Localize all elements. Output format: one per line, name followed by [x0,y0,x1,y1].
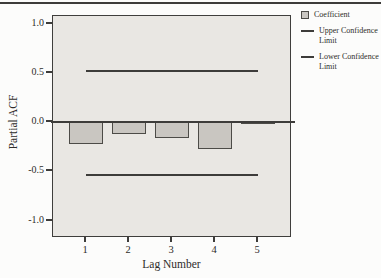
y-axis-tick-label: 1.0 [12,17,44,29]
x-axis-tick [170,237,172,242]
legend-item-label: Coefficient [314,10,374,20]
x-axis-tick-label: 4 [204,244,224,256]
plot-area [52,15,291,237]
bar-lag-2 [112,122,146,134]
legend-swatch-line [301,56,314,58]
lower-confidence-limit-line [86,174,258,176]
legend-item: Coefficient [301,10,379,20]
page-top-rule-divider [0,2,381,4]
x-axis-tick-label: 2 [118,244,138,256]
x-axis-tick [213,237,215,242]
x-axis-tick-label: 1 [75,244,95,256]
y-axis-tick-label: -1.0 [12,214,44,226]
bar-lag-4 [198,122,232,149]
x-axis-tick [256,237,258,242]
legend-item: Lower Confidence Limit [301,52,379,72]
x-axis-tick-label: 5 [247,244,267,256]
bar-lag-3 [155,122,189,138]
y-axis-tick-label: 0.5 [12,66,44,78]
x-axis-tick [127,237,129,242]
zero-reference-line [51,121,295,123]
x-axis-tick [84,237,86,242]
legend-swatch-line [301,30,314,32]
y-axis-tick [46,120,52,122]
legend-swatch-square [301,11,309,19]
upper-confidence-limit-line [86,70,258,72]
x-axis-title: Lag Number [52,258,291,270]
legend-item: Upper Confidence Limit [301,26,379,46]
y-axis-tick [46,71,52,73]
legend-item-label: Upper Confidence Limit [319,26,379,46]
y-axis-tick-label: 0.0 [12,115,44,127]
y-axis-tick [46,22,52,24]
y-axis-tick [46,169,52,171]
figure-page: Partial ACF 1.00.50.0-0.5-1.012345 Lag N… [0,0,381,278]
y-axis-tick [46,219,52,221]
x-axis-tick-label: 3 [161,244,181,256]
legend-item-label: Lower Confidence Limit [319,52,379,72]
legend: CoefficientUpper Confidence LimitLower C… [301,10,379,72]
y-axis-tick-label: -0.5 [12,164,44,176]
bar-lag-1 [69,122,103,144]
